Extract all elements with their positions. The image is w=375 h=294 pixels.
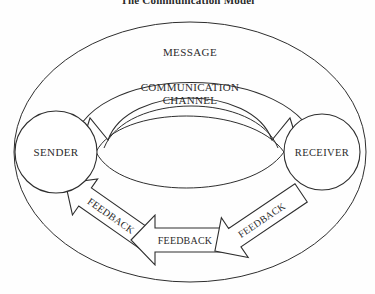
communication-model-diagram: SENDER RECEIVER MESSAGE COMMUNICATION CH… xyxy=(0,0,375,294)
communication-channel-label-line2: CHANNEL xyxy=(163,94,218,106)
feedback-label-center: FEEDBACK xyxy=(158,235,213,246)
diagram-page: The Communication Model SENDER REC xyxy=(0,0,375,294)
node-sender-label: SENDER xyxy=(33,146,78,158)
message-label: MESSAGE xyxy=(163,46,217,58)
communication-channel-label-line1: COMMUNICATION xyxy=(141,81,240,93)
channel-lens-shape xyxy=(96,116,284,188)
node-receiver-label: RECEIVER xyxy=(295,147,350,158)
